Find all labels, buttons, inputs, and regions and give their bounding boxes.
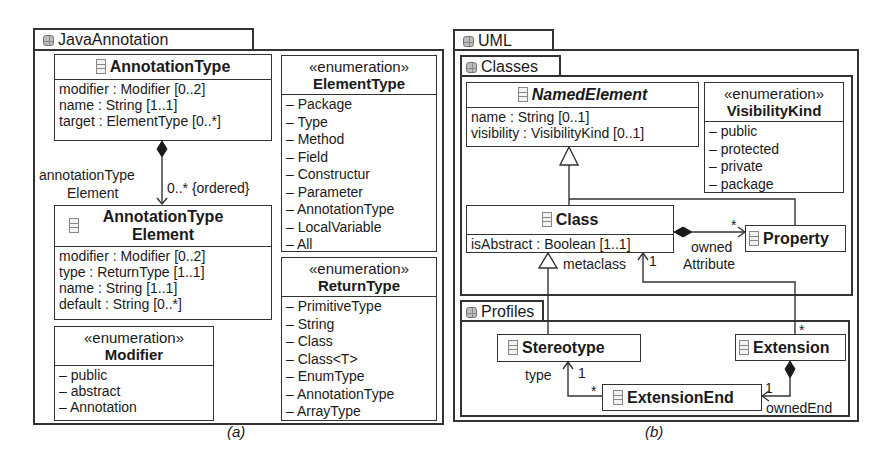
generalization-triangle-icon <box>539 253 557 268</box>
generalization-line <box>569 199 795 225</box>
generalization-triangle-icon <box>560 147 578 165</box>
association-line <box>643 253 795 334</box>
association-line <box>568 362 602 396</box>
composition-diamond-icon <box>674 227 692 237</box>
composition-diamond-icon <box>785 361 795 378</box>
composition-diamond-icon <box>157 141 167 157</box>
connector-layer <box>0 0 888 468</box>
